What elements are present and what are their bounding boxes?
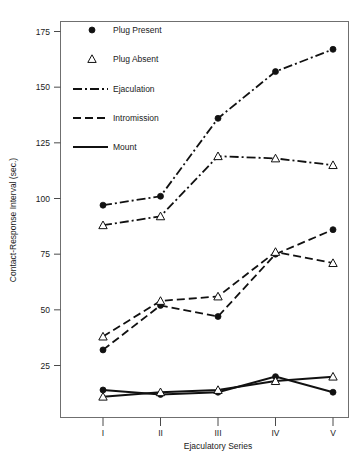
chart-figure: 255075100125150175 IIIIIIIVV Contact-Res… [0,0,352,457]
x-tick-label: I [102,428,104,438]
y-tick-label: 125 [36,138,50,148]
legend-label: Ejaculation [113,84,155,94]
y-tick-label: 100 [36,194,50,204]
legend-label: Intromission [113,113,159,123]
data-point-plug-present [158,193,164,199]
data-point-plug-present [215,314,221,320]
y-tick-label: 50 [41,305,51,315]
data-point-plug-present [330,46,336,52]
chart-background [0,0,352,457]
x-tick-label: II [158,428,163,438]
y-axis-title: Contact-Response Interval (sec.) [8,158,18,282]
data-point-plug-present [273,69,279,75]
x-tick-label: IV [271,428,279,438]
y-tick-label: 150 [36,82,50,92]
legend-label: Plug Absent [113,54,159,64]
x-axis-title: Ejaculatory Series [184,441,253,451]
data-point-plug-present [100,202,106,208]
filled-circle-icon [89,27,95,33]
y-tick-label: 75 [41,249,51,259]
legend-label: Plug Present [113,25,162,35]
data-point-plug-present [330,227,336,233]
x-tick-label: III [214,428,221,438]
y-tick-label: 25 [41,361,51,371]
data-point-plug-present [330,389,336,395]
y-tick-label: 175 [36,27,50,37]
legend-label: Mount [113,142,137,152]
data-point-plug-present [100,347,106,353]
x-tick-label: V [330,428,336,438]
data-point-plug-present [215,115,221,121]
